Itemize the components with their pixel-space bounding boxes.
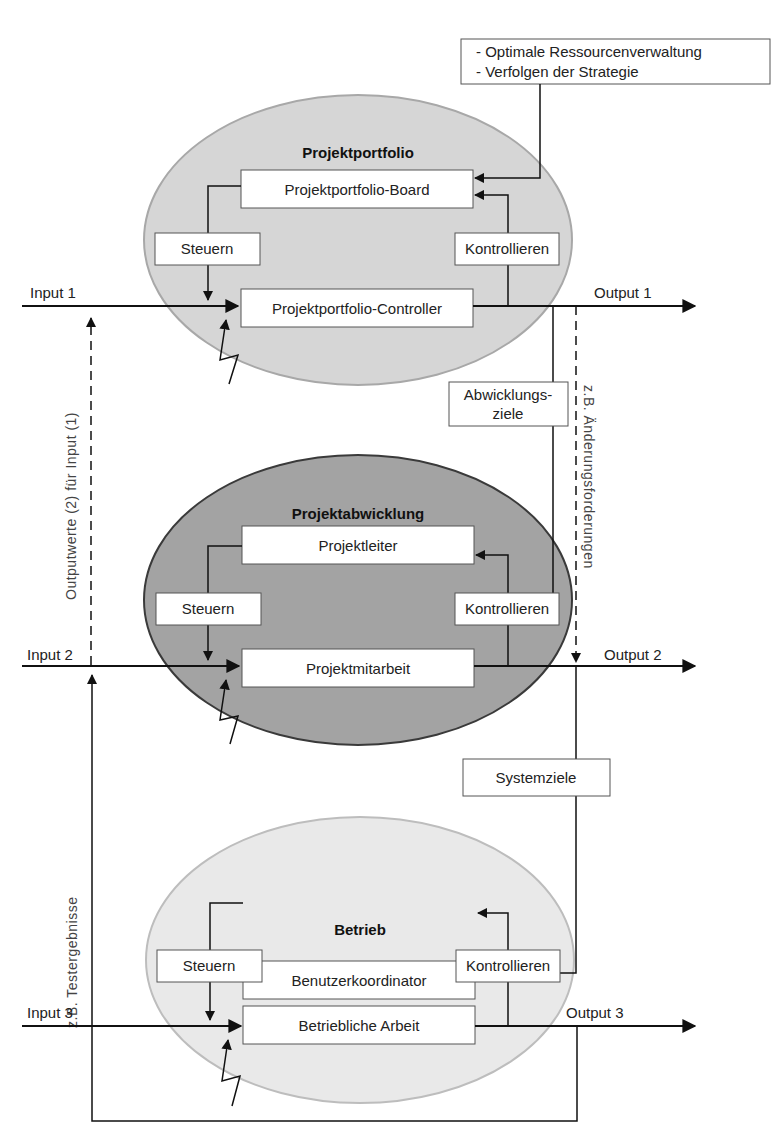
abwicklungsziele-line-1: Abwicklungs-	[464, 386, 552, 403]
level-title: Projektportfolio	[302, 144, 414, 161]
role-bottom-label: Projektportfolio-Controller	[272, 300, 442, 317]
control-label: Kontrollieren	[465, 240, 549, 257]
steer-label: Steuern	[182, 600, 235, 617]
role-bottom-label: Betriebliche Arbeit	[299, 1017, 421, 1034]
strategy-note: - Optimale Ressourcenverwaltung - Verfol…	[461, 39, 770, 84]
output-label: Output 2	[604, 646, 662, 663]
strategy-note-line-1: - Optimale Ressourcenverwaltung	[476, 43, 702, 60]
control-label: Kontrollieren	[466, 957, 550, 974]
systemziele-box: Systemziele	[463, 759, 610, 796]
input-label: Input 1	[30, 284, 76, 301]
strategy-note-line-2: - Verfolgen der Strategie	[476, 63, 639, 80]
aenderungen-feedback-label: z.B. Änderungsforderungen	[581, 385, 597, 569]
role-top-label: Benutzerkoordinator	[291, 972, 426, 989]
level-title: Betrieb	[334, 921, 386, 938]
role-top-label: Projektportfolio-Board	[284, 181, 429, 198]
output-label: Output 3	[566, 1004, 624, 1021]
control-label: Kontrollieren	[465, 600, 549, 617]
abwicklungsziele-line-2: ziele	[493, 405, 524, 422]
input-label: Input 2	[27, 646, 73, 663]
level-title: Projektabwicklung	[292, 505, 425, 522]
abwicklungsziele-box: Abwicklungs- ziele	[449, 382, 568, 426]
systemziele-label: Systemziele	[496, 769, 577, 786]
control-loop-diagram: - Optimale Ressourcenverwaltung - Verfol…	[0, 0, 776, 1144]
outputwerte-feedback-label: Outputwerte (2) für Input (1)	[63, 412, 79, 600]
steer-label: Steuern	[183, 957, 236, 974]
input-label: Input 3	[27, 1004, 73, 1021]
steer-label: Steuern	[181, 240, 234, 257]
role-top-label: Projektleiter	[318, 537, 397, 554]
role-bottom-label: Projektmitarbeit	[306, 660, 411, 677]
output-label: Output 1	[594, 284, 652, 301]
